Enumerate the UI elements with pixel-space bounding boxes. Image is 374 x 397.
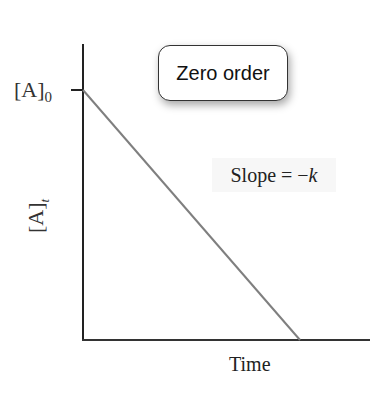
chart-title-box: Zero order (158, 45, 288, 101)
x-axis-label: Time (229, 353, 271, 376)
data-line (83, 90, 300, 340)
y-tick-label-a0: [A]0 (14, 77, 52, 106)
y-axis-label: [A]t (23, 199, 52, 233)
slope-annotation: Slope = −k (212, 158, 336, 192)
